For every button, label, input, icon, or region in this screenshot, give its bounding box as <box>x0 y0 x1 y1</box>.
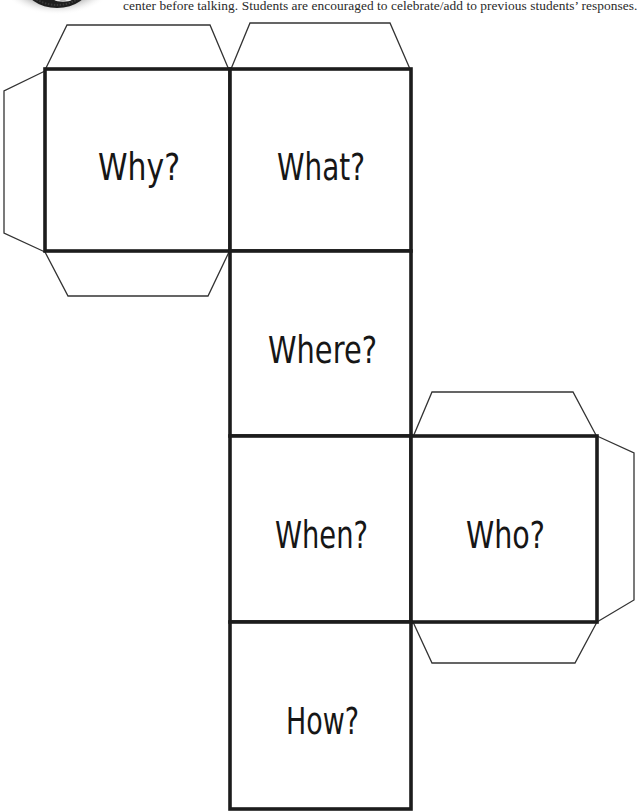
tab-who-top <box>413 392 597 437</box>
cube-net-diagram: Why? What? Where? When? Who? How? <box>0 0 639 811</box>
worksheet-page: Why? What? Where? When? Who? How? center… <box>0 0 639 811</box>
tab-why-bottom <box>45 252 229 296</box>
face-label-where: Where? <box>268 329 377 372</box>
tab-what-top <box>231 23 410 69</box>
badge-logo-icon <box>5 0 109 18</box>
face-label-what: What? <box>277 146 365 189</box>
face-label-why: Why? <box>98 146 180 189</box>
face-label-who: Who? <box>466 514 545 557</box>
tab-who-bottom <box>413 622 597 663</box>
face-label-when: When? <box>275 514 368 557</box>
tab-why-top <box>45 25 229 70</box>
tab-why-left <box>4 71 45 252</box>
instructions-text: center before talking. Students are enco… <box>123 0 623 14</box>
face-label-how: How? <box>286 700 359 743</box>
tab-who-right <box>597 436 634 622</box>
